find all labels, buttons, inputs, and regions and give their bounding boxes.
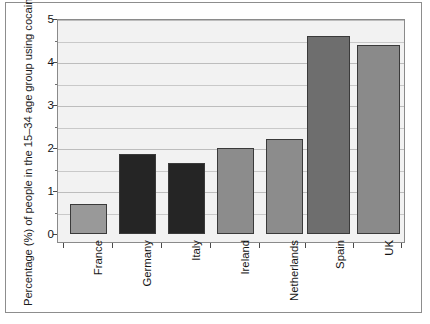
y-tick-label-3: 3 [40, 100, 54, 110]
gridline-3 [58, 106, 404, 107]
x-label-germany: Germany [141, 240, 154, 310]
bar-italy[interactable] [168, 163, 205, 234]
x-label-netherlands: Netherlands [288, 240, 301, 310]
gridline-5 [58, 20, 404, 21]
bar-ireland[interactable] [217, 148, 254, 234]
x-label-uk: UK [383, 240, 396, 310]
x-label-ireland: Ireland [239, 240, 252, 310]
x-label-spain: Spain [334, 240, 347, 310]
bar-germany[interactable] [119, 154, 156, 234]
gridline-3-5 [58, 85, 404, 86]
bar-netherlands[interactable] [266, 139, 303, 234]
gridline-2-5 [58, 128, 404, 129]
y-tick-label-2: 2 [40, 143, 54, 153]
x-label-france: France [92, 240, 105, 310]
gridline-4-5 [58, 42, 404, 43]
bar-uk[interactable] [357, 45, 400, 234]
chart-figure: Percentage (%) of people in the 15–34 ag… [0, 0, 430, 324]
bar-france[interactable] [70, 204, 107, 234]
y-tick-label-5: 5 [40, 14, 54, 24]
y-tick-label-0: 0 [40, 229, 54, 239]
plot-area [57, 19, 405, 243]
gridline-4 [58, 63, 404, 64]
x-label-italy: Italy [190, 240, 203, 310]
y-tick-label-1: 1 [40, 186, 54, 196]
y-axis-ticks: 5 4 3 2 1 0 [36, 19, 54, 243]
y-tick-label-4: 4 [40, 57, 54, 67]
x-axis-labels: France Germany Italy Ireland Netherlands… [57, 248, 405, 310]
bar-spain[interactable] [307, 36, 350, 234]
